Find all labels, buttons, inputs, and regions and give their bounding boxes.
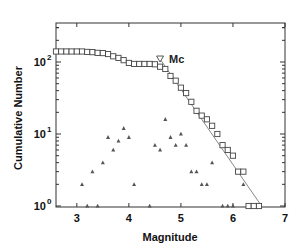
square-marker	[256, 203, 261, 208]
square-marker	[204, 117, 209, 122]
frequency-magnitude-chart: Mc Magnitude Cumulative Number 100101102…	[0, 0, 303, 250]
square-marker	[95, 50, 100, 55]
x-tick-label: 3	[74, 212, 80, 224]
square-marker	[220, 143, 225, 148]
square-marker	[168, 73, 173, 78]
x-tick-label: 6	[230, 212, 236, 224]
y-axis-labels: 100101102	[34, 53, 52, 212]
square-marker	[210, 123, 215, 128]
square-marker	[225, 147, 230, 152]
square-marker	[90, 50, 95, 55]
square-marker	[111, 54, 116, 59]
x-axis-title: Magnitude	[143, 231, 198, 243]
x-tick-label: 7	[282, 212, 288, 224]
y-axis-title: Cumulative Number	[12, 65, 24, 170]
square-marker	[126, 60, 131, 65]
y-tick-exponent: 0	[47, 197, 52, 206]
square-marker	[79, 49, 84, 54]
square-marker	[230, 153, 235, 158]
square-marker	[85, 49, 90, 54]
square-marker	[152, 62, 157, 67]
y-tick-label: 10	[34, 128, 46, 140]
square-marker	[189, 99, 194, 104]
square-marker	[105, 51, 110, 56]
square-marker	[251, 203, 256, 208]
square-marker	[121, 58, 126, 63]
x-tick-label: 5	[178, 212, 184, 224]
square-marker	[59, 49, 64, 54]
square-marker	[215, 131, 220, 136]
square-marker	[173, 78, 178, 83]
mc-label: Mc	[169, 53, 184, 65]
y-tick-exponent: 2	[47, 53, 52, 62]
square-marker	[184, 90, 189, 95]
square-marker	[131, 61, 136, 66]
square-marker	[147, 61, 152, 66]
square-marker	[64, 49, 69, 54]
square-marker	[194, 108, 199, 113]
square-marker	[53, 49, 58, 54]
square-marker	[241, 169, 246, 174]
y-tick-exponent: 1	[47, 125, 52, 134]
square-marker	[100, 50, 105, 55]
square-marker	[69, 49, 74, 54]
x-axis-labels: 34567	[74, 212, 288, 224]
square-marker	[142, 61, 147, 66]
y-tick-label: 10	[34, 56, 46, 68]
square-marker	[116, 55, 121, 60]
square-marker	[199, 113, 204, 118]
y-tick-label: 10	[34, 200, 46, 212]
square-marker	[246, 203, 251, 208]
square-marker	[163, 66, 168, 71]
square-marker	[74, 49, 79, 54]
square-marker	[236, 169, 241, 174]
x-tick-label: 4	[126, 212, 133, 224]
square-marker	[157, 64, 162, 69]
square-marker	[178, 85, 183, 90]
square-marker	[137, 61, 142, 66]
